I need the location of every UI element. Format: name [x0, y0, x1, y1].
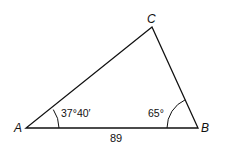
vertex-label-a: A — [13, 121, 22, 135]
vertex-label-b: B — [201, 121, 209, 135]
vertex-label-c: C — [147, 12, 156, 26]
side-label-ab: 89 — [110, 132, 122, 144]
triangle-abc — [26, 27, 198, 128]
angle-label-b: 65° — [148, 107, 164, 119]
angle-arc-b — [167, 100, 185, 128]
angle-label-a: 37°40′ — [61, 107, 91, 119]
triangle-diagram: A B C 37°40′ 65° 89 — [0, 0, 227, 150]
angle-arc-a — [53, 110, 59, 128]
